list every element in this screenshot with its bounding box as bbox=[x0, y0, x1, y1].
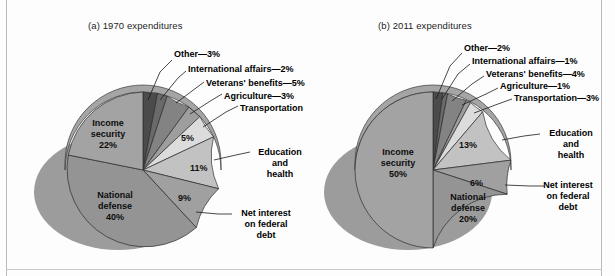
callout-b-education-line1: Education bbox=[542, 128, 600, 139]
callout-b-international: International affairs—1% bbox=[472, 56, 578, 67]
label-a-interest-pct: 9% bbox=[178, 193, 191, 203]
label-a-income-security-value: 22% bbox=[76, 140, 140, 151]
frame-right-border bbox=[601, 0, 602, 276]
callout-b-transportation: Transportation—3% bbox=[514, 93, 599, 104]
label-a-income-security-line1: Income bbox=[76, 118, 140, 129]
callout-a-interest-line2: on federal bbox=[228, 219, 304, 230]
label-b-income-security-line2: security bbox=[366, 158, 430, 169]
pie-b-slice-international-affairs bbox=[433, 93, 448, 170]
callout-a-transportation: Transportation bbox=[240, 103, 303, 114]
callout-a-education-line3: health bbox=[252, 169, 308, 180]
callout-b-agriculture: Agriculture—1% bbox=[500, 81, 570, 92]
callout-a-education-line1: Education bbox=[252, 147, 308, 158]
label-b-income-security-line1: Income bbox=[366, 147, 430, 158]
callout-b-interest-line1: Net interest bbox=[530, 180, 606, 191]
label-b-education-pct: 13% bbox=[459, 140, 477, 150]
label-b-interest-pct: 6% bbox=[470, 178, 483, 188]
figure-canvas: (a) 1970 expenditures (b) 2011 expenditu… bbox=[0, 0, 615, 276]
callout-a-interest-line3: debt bbox=[228, 230, 304, 241]
callout-b-other: Other—2% bbox=[464, 43, 510, 54]
panel-a-title: (a) 1970 expenditures bbox=[88, 20, 183, 31]
pie-a-slice-transportation bbox=[143, 117, 214, 170]
pie-b-slice-agriculture bbox=[433, 100, 471, 170]
frame-left-border bbox=[6, 0, 7, 276]
callout-b-veterans: Veterans' benefits—4% bbox=[486, 69, 585, 80]
callout-a-education-line2: and bbox=[252, 158, 308, 169]
callout-b-interest-line2: on federal bbox=[530, 191, 606, 202]
callout-b-education-line2: and bbox=[542, 139, 600, 150]
callout-a-international: International affairs—2% bbox=[188, 64, 294, 75]
label-a-income-security-line2: security bbox=[76, 129, 140, 140]
pie-a-slice-international-affairs bbox=[143, 93, 167, 170]
frame-bottom-border bbox=[6, 269, 602, 270]
callout-b-education-line3: health bbox=[542, 150, 600, 161]
callout-a-interest-line1: Net interest bbox=[228, 208, 304, 219]
label-a-national-defense-line1: National bbox=[83, 190, 147, 201]
callout-b-interest-line3: debt bbox=[530, 202, 606, 213]
pie-b-slice-transportation bbox=[433, 103, 483, 170]
label-a-national-defense-value: 40% bbox=[83, 212, 147, 223]
label-b-national-defense-line1: National bbox=[436, 192, 500, 203]
label-a-education-pct: 11% bbox=[190, 163, 208, 173]
pie-b-slice-other bbox=[433, 92, 443, 170]
pie-a-slice-other bbox=[143, 92, 158, 170]
label-b-income-security-value: 50% bbox=[366, 169, 430, 180]
pie-b-slice-veterans-benefits bbox=[433, 94, 466, 170]
label-b-national-defense-value: 20% bbox=[436, 214, 500, 225]
label-b-national-defense-line2: defense bbox=[436, 203, 500, 214]
panel-b-title: (b) 2011 expenditures bbox=[378, 20, 472, 31]
callout-a-veterans: Veterans' benefits—5% bbox=[206, 78, 305, 89]
callout-a-agriculture: Agriculture—3% bbox=[224, 91, 294, 102]
callout-a-other: Other—3% bbox=[174, 49, 220, 60]
label-a-transportation-pct: 5% bbox=[181, 133, 194, 143]
label-a-national-defense-line2: defense bbox=[83, 201, 147, 212]
